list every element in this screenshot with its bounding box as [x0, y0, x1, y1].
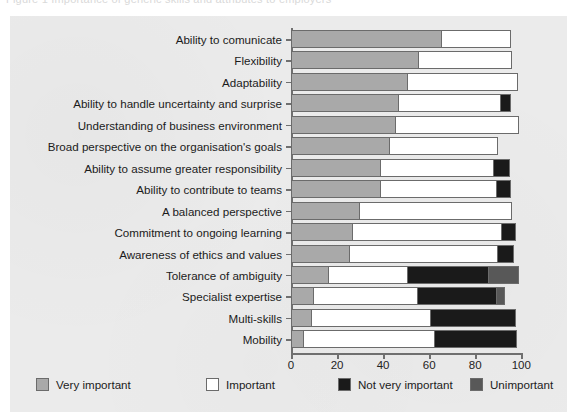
chart-legend: Very importantImportantNot very importan…	[10, 374, 567, 398]
category-label: Ability to assume greater responsibility	[84, 159, 282, 178]
legend-item[interactable]: Very important	[36, 374, 131, 394]
cut-off-caption-strip: Figure 1 Importance of generic skills an…	[0, 0, 577, 14]
bar-segment	[494, 159, 510, 177]
category-label: Ability to contribute to teams	[136, 180, 282, 199]
bar-segment	[291, 116, 396, 134]
category-label: Understanding of business environment	[78, 116, 282, 135]
x-tick-label: 100	[512, 359, 531, 371]
category-label: Flexibility	[234, 51, 282, 70]
legend-label: Unimportant	[490, 378, 553, 391]
figure-container: Figure 1 Importance of generic skills an…	[0, 0, 577, 419]
legend-item[interactable]: Important	[206, 374, 275, 394]
legend-label: Important	[226, 378, 275, 391]
bar-segment	[431, 309, 515, 327]
legend-swatch-unimportant	[470, 378, 483, 391]
bar-segment	[489, 266, 519, 284]
bar-segment	[304, 330, 435, 348]
category-label: Adaptability	[222, 73, 282, 92]
bar-segment	[396, 116, 519, 134]
bar-segment	[291, 287, 314, 305]
bar-segment	[408, 266, 489, 284]
bar-segment	[381, 180, 497, 198]
x-axis-line	[291, 353, 522, 355]
bar-segment	[314, 287, 418, 305]
bar-segment	[291, 51, 419, 69]
x-tick-label: 60	[423, 359, 436, 371]
bar-segment	[497, 180, 511, 198]
category-label: Mobility	[243, 330, 282, 349]
category-label: Commitment to ongoing learning	[114, 223, 282, 242]
legend-label: Not very important	[358, 378, 453, 391]
figure-caption-ghost: Figure 1 Importance of generic skills an…	[6, 0, 331, 5]
bar-segment	[501, 94, 511, 112]
bar-segment	[291, 180, 381, 198]
legend-swatch-not-very-important	[338, 378, 351, 391]
x-tick-label: 80	[469, 359, 482, 371]
legend-item[interactable]: Unimportant	[470, 374, 553, 394]
bar-segment	[497, 287, 505, 305]
bar-segment	[353, 223, 502, 241]
category-label: Ability to handle uncertainty and surpri…	[73, 94, 282, 113]
bar-segment	[442, 30, 511, 48]
category-label: Tolerance of ambiguity	[166, 266, 282, 285]
legend-item[interactable]: Not very important	[338, 374, 453, 394]
bar-segment	[291, 137, 390, 155]
bar-segment	[360, 202, 512, 220]
x-tick-label: 20	[331, 359, 344, 371]
legend-swatch-very-important	[36, 378, 49, 391]
bar-segment	[291, 330, 304, 348]
category-label: A balanced perspective	[162, 202, 282, 221]
bar-segment	[502, 223, 516, 241]
plot-area: 020406080100	[291, 28, 532, 358]
bar-segment	[419, 51, 512, 69]
bar-segment	[350, 245, 499, 263]
category-label: Specialist expertise	[182, 287, 282, 306]
category-label: Multi-skills	[229, 309, 282, 328]
category-label: Awareness of ethics and values	[119, 245, 282, 264]
bar-segment	[390, 137, 498, 155]
x-tick-label: 40	[377, 359, 390, 371]
bar-segment	[291, 245, 350, 263]
bar-segment	[291, 30, 442, 48]
bar-segment	[291, 266, 329, 284]
bar-segment	[291, 159, 381, 177]
bar-segment	[408, 73, 517, 91]
bar-segment	[291, 223, 353, 241]
category-label: Ability to comunicate	[176, 30, 282, 49]
bar-segment	[291, 309, 312, 327]
bar-segment	[291, 73, 408, 91]
bar-segment	[329, 266, 408, 284]
category-label: Broad perspective on the organisation's …	[48, 137, 282, 156]
bar-segment	[381, 159, 494, 177]
bar-segment	[418, 287, 497, 305]
bar-segment	[291, 94, 399, 112]
bar-segment	[498, 245, 514, 263]
x-tick-label: 0	[288, 359, 294, 371]
bar-segment	[312, 309, 432, 327]
bar-segment	[435, 330, 517, 348]
chart-panel: 020406080100 Ability to comunicateFlexib…	[10, 16, 567, 412]
bar-segment	[399, 94, 500, 112]
bar-segment	[291, 202, 360, 220]
legend-label: Very important	[56, 378, 131, 391]
legend-swatch-important	[206, 378, 219, 391]
